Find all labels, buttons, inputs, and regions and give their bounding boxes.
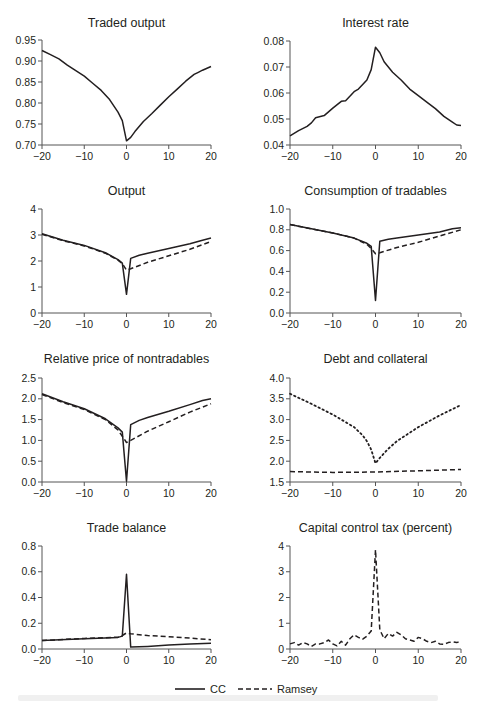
- y-tick-label: 2.0: [269, 455, 284, 467]
- y-tick-label: 0.70: [16, 139, 37, 151]
- x-tick-label: −10: [324, 487, 342, 499]
- chart-title: Trade balance: [87, 521, 166, 535]
- chart-title: Consumption of tradables: [304, 184, 446, 198]
- x-tick-label: 20: [205, 318, 217, 330]
- x-tick-label: 0: [373, 318, 379, 330]
- series-cc-line: [42, 394, 211, 481]
- x-tick-label: −10: [75, 654, 93, 666]
- x-tick-label: 0: [373, 654, 379, 666]
- chart-title: Relative price of nontradables: [44, 352, 209, 366]
- chart-panels: Traded output0.700.750.800.850.900.95−20…: [16, 16, 467, 666]
- x-tick-label: −10: [75, 150, 93, 162]
- x-tick-label: −10: [324, 654, 342, 666]
- y-tick-label: 0.75: [16, 118, 37, 130]
- legend-cc-label: CC: [210, 683, 226, 695]
- series-collateral-line: [290, 394, 461, 464]
- y-tick-label: 0.85: [16, 76, 37, 88]
- x-tick-label: 20: [455, 654, 467, 666]
- chart-interest-rate: Interest rate0.040.050.060.070.08−20−100…: [264, 16, 467, 162]
- series-ramsey-line: [290, 225, 461, 254]
- x-tick-label: 10: [163, 150, 175, 162]
- x-tick-label: −20: [281, 318, 299, 330]
- y-tick-label: 0.6: [21, 565, 36, 577]
- chart-consumption-of-tradables: Consumption of tradables0.00.20.40.60.81…: [269, 184, 467, 330]
- series-cc-line: [290, 47, 461, 136]
- x-tick-label: −20: [281, 654, 299, 666]
- y-tick-label: 0.8: [269, 223, 284, 235]
- x-tick-label: −20: [33, 487, 51, 499]
- x-tick-label: 10: [412, 318, 424, 330]
- y-tick-label: 0.06: [264, 87, 285, 99]
- x-tick-label: 10: [412, 150, 424, 162]
- x-tick-label: 20: [455, 318, 467, 330]
- y-tick-label: 0.8: [21, 540, 36, 552]
- y-tick-label: 0.04: [264, 139, 285, 151]
- legend: CC Ramsey: [175, 683, 318, 695]
- x-tick-label: −10: [75, 318, 93, 330]
- y-tick-label: 4.0: [269, 372, 284, 384]
- y-tick-label: 1.0: [21, 434, 36, 446]
- x-tick-label: 20: [205, 487, 217, 499]
- x-tick-label: 0: [124, 318, 130, 330]
- y-tick-label: 3.0: [269, 413, 284, 425]
- x-tick-label: −10: [324, 318, 342, 330]
- series-ramsey-line: [42, 234, 211, 270]
- y-tick-label: 0: [278, 643, 284, 655]
- y-tick-label: 0.08: [264, 35, 285, 47]
- series-ramsey-line: [42, 633, 211, 641]
- y-tick-label: 1.5: [269, 476, 284, 488]
- legend-ramsey-label: Ramsey: [277, 683, 318, 695]
- x-tick-label: −20: [281, 487, 299, 499]
- y-tick-label: 0.05: [264, 113, 285, 125]
- x-tick-label: 0: [373, 150, 379, 162]
- x-tick-label: 0: [124, 654, 130, 666]
- series-cc-line: [42, 574, 211, 647]
- x-tick-label: −10: [75, 487, 93, 499]
- chart-capital-control-tax: Capital control tax (percent)01234−20−10…: [278, 521, 467, 666]
- y-tick-label: 0.0: [21, 643, 36, 655]
- x-tick-label: 0: [373, 487, 379, 499]
- y-tick-label: 0.0: [21, 476, 36, 488]
- x-tick-label: 10: [163, 654, 175, 666]
- y-tick-label: 2.0: [21, 392, 36, 404]
- figure-caption-blurred: [18, 695, 438, 701]
- figure-canvas: Traded output0.700.750.800.850.900.95−20…: [0, 0, 487, 707]
- chart-relative-price-of-nontradables: Relative price of nontradables0.00.51.01…: [21, 352, 217, 499]
- y-tick-label: 2: [278, 591, 284, 603]
- y-tick-label: 2: [30, 255, 36, 267]
- chart-title: Capital control tax (percent): [299, 521, 453, 535]
- x-tick-label: 20: [455, 150, 467, 162]
- y-tick-label: 3.5: [269, 392, 284, 404]
- x-tick-label: −20: [33, 150, 51, 162]
- chart-title: Debt and collateral: [323, 352, 427, 366]
- series-cc-line: [290, 225, 461, 301]
- y-tick-label: 1.5: [21, 413, 36, 425]
- y-tick-label: 0.6: [269, 244, 284, 256]
- y-tick-label: 4: [30, 203, 36, 215]
- x-tick-label: 10: [412, 487, 424, 499]
- x-tick-label: 0: [124, 487, 130, 499]
- x-tick-label: 10: [412, 654, 424, 666]
- y-tick-label: 0.80: [16, 97, 37, 109]
- series-ramsey-line: [290, 550, 461, 647]
- y-tick-label: 0.07: [264, 61, 285, 73]
- y-tick-label: 0.4: [21, 591, 36, 603]
- x-tick-label: −20: [33, 654, 51, 666]
- y-tick-label: 0.4: [269, 265, 284, 277]
- y-tick-label: 1: [278, 617, 284, 629]
- y-tick-label: 0.90: [16, 55, 37, 67]
- series-cc-line: [42, 234, 211, 295]
- chart-title: Traded output: [88, 16, 166, 30]
- y-tick-label: 0.95: [16, 34, 37, 46]
- y-tick-label: 2.5: [21, 372, 36, 384]
- chart-output: Output01234−20−1001020: [30, 184, 217, 330]
- y-tick-label: 2.5: [269, 434, 284, 446]
- chart-trade-balance: Trade balance0.00.20.40.60.8−20−1001020: [21, 521, 217, 666]
- y-tick-label: 0.2: [21, 617, 36, 629]
- series-ramsey-line: [42, 395, 211, 443]
- chart-debt-and-collateral: Debt and collateral1.52.02.53.03.54.0−20…: [269, 352, 467, 499]
- x-tick-label: 20: [205, 654, 217, 666]
- x-tick-label: −10: [324, 150, 342, 162]
- x-tick-label: 10: [163, 487, 175, 499]
- y-tick-label: 0.5: [21, 455, 36, 467]
